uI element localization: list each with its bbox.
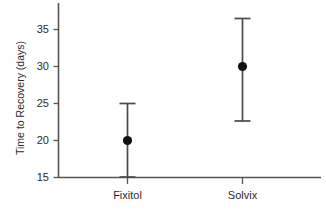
chart-canvas: 35 30 25 20 15 Time to Recovery (days) F… <box>0 0 326 212</box>
errorbar-chart: 35 30 25 20 15 Time to Recovery (days) F… <box>0 0 326 212</box>
y-tick-label-35: 35 <box>37 23 49 35</box>
y-tick-label-30: 30 <box>37 60 49 72</box>
y-tick-label-25: 25 <box>37 97 49 109</box>
x-axis-tickmarks <box>128 178 243 185</box>
y-tick-label-15: 15 <box>37 171 49 183</box>
datapoint-solvix <box>235 19 251 122</box>
y-tick-label-20: 20 <box>37 134 49 146</box>
marker-solvix <box>238 62 247 71</box>
y-axis-title: Time to Recovery (days) <box>14 41 26 155</box>
x-tick-label-fixitol: Fixitol <box>113 189 142 201</box>
datapoint-fixitol <box>120 104 136 178</box>
marker-fixitol <box>123 136 132 145</box>
x-tick-label-solvix: Solvix <box>228 189 258 201</box>
